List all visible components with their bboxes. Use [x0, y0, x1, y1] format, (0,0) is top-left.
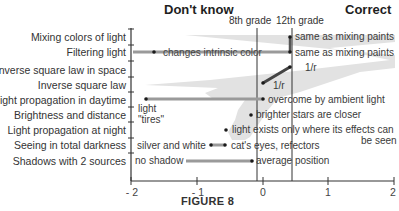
- anno-filtering-mid: changes intrinsic color: [163, 47, 262, 58]
- anno-daytime-right: overcome by ambient light: [268, 94, 385, 105]
- anno-darkness-right: cat's eyes, refectors: [231, 140, 320, 151]
- anno-daytime-left-2: "tires": [138, 114, 164, 125]
- anno-filtering-right: same as mixing paints: [295, 47, 394, 58]
- anno-brightness: brighter stars are closer: [256, 109, 361, 120]
- figure-caption: FIGURE 8: [181, 195, 234, 207]
- anno-shadows-right: average position: [256, 155, 329, 166]
- anno-shadows-left: no shadow: [135, 155, 183, 166]
- x-tick-label: 0: [260, 186, 266, 198]
- anno-night-2: be seen: [361, 135, 397, 146]
- anno-daytime-left-1: light: [138, 103, 156, 114]
- row-label-inverse-space: Inverse square law in space: [0, 64, 126, 76]
- grade8-label: 8th grade: [229, 15, 271, 26]
- anno-darkness-left: silver and white: [137, 140, 206, 151]
- x-tick-label: 2: [390, 186, 396, 198]
- row-label-inverse: Inverse square law: [38, 79, 126, 91]
- row-label-night: Light propagation at night: [7, 124, 126, 136]
- anno-night-1: light exists only where its effects can: [232, 124, 394, 135]
- anno-mixing-right: same as mixing paints: [295, 31, 394, 42]
- row-label-shadows: Shadows with 2 sources: [13, 155, 126, 167]
- grade12-label: 12th grade: [276, 15, 324, 26]
- x-tick-label: 1: [325, 186, 331, 198]
- row-label-filtering: Filtering light: [66, 46, 126, 58]
- x-tick-label: - 2: [126, 186, 138, 198]
- anno-inverse-space: 1/r: [305, 62, 317, 73]
- figure-8-chart: Don't know Correct 8th grade 12th grade …: [0, 0, 399, 211]
- anno-inverse: 1/r: [273, 80, 285, 91]
- row-label-brightness: Brightness and distance: [14, 109, 126, 121]
- row-label-mixing: Mixing colors of light: [31, 31, 126, 43]
- row-label-daytime: Light propagation in daytime: [0, 94, 126, 106]
- row-label-darkness: Seeing in total darkness: [14, 139, 126, 151]
- dont-know-header: Don't know: [164, 2, 234, 17]
- correct-header: Correct: [345, 2, 391, 17]
